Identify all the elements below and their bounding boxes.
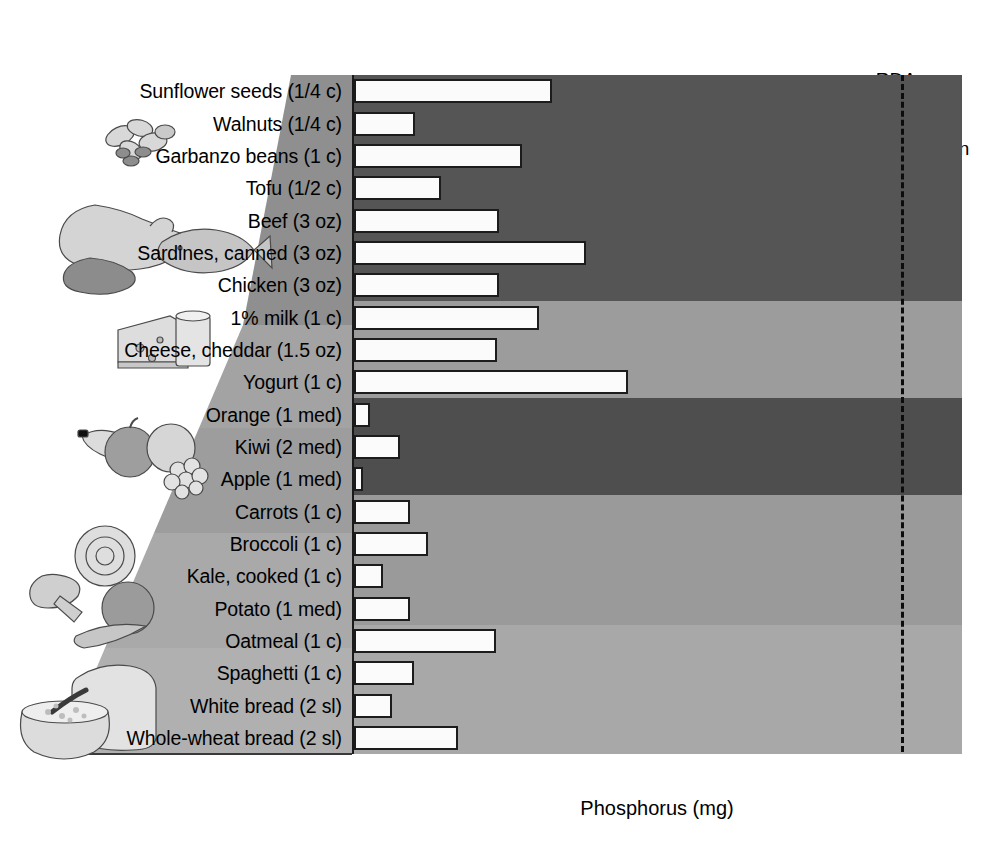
y-axis-label: Tofu (1/2 c)	[246, 176, 342, 200]
bar	[354, 726, 458, 750]
y-axis-label: Cheese, cheddar (1.5 oz)	[124, 338, 342, 362]
y-axis-label: Potato (1 med)	[214, 597, 342, 621]
y-axis-label: Kiwi (2 med)	[235, 435, 342, 459]
y-axis-label: Chicken (3 oz)	[218, 273, 342, 297]
bar	[354, 338, 497, 362]
band-nuts-meat	[354, 75, 962, 301]
y-axis-label: Walnuts (1/4 c)	[213, 112, 342, 136]
bar	[354, 661, 414, 685]
bar	[354, 500, 410, 524]
rda-reference-line	[901, 75, 904, 752]
y-axis-label: White bread (2 sl)	[190, 694, 342, 718]
y-axis-label: Yogurt (1 c)	[243, 370, 342, 394]
y-axis-label: 1% milk (1 c)	[231, 306, 342, 330]
bar	[354, 597, 410, 621]
bar	[354, 435, 400, 459]
y-axis-labels: Sunflower seeds (1/4 c)Walnuts (1/4 c)Ga…	[0, 75, 348, 754]
bar	[354, 403, 370, 427]
bar	[354, 370, 628, 394]
bar	[354, 306, 539, 330]
bar	[354, 209, 499, 233]
bar	[354, 629, 496, 653]
bar	[354, 176, 441, 200]
y-axis-label: Sunflower seeds (1/4 c)	[139, 79, 342, 103]
y-axis-label: Garbanzo beans (1 c)	[155, 144, 342, 168]
y-axis-label: Broccoli (1 c)	[230, 532, 342, 556]
bar	[354, 532, 428, 556]
band-fruit	[354, 398, 962, 495]
y-axis-label: Whole-wheat bread (2 sl)	[127, 726, 342, 750]
bar	[354, 467, 363, 491]
y-axis-label: Oatmeal (1 c)	[225, 629, 342, 653]
plot-area	[352, 75, 962, 754]
bar	[354, 79, 552, 103]
y-axis-label: Spaghetti (1 c)	[217, 661, 342, 685]
y-axis-label: Beef (3 oz)	[248, 209, 342, 233]
bar	[354, 241, 586, 265]
bar	[354, 273, 499, 297]
y-axis-label: Apple (1 med)	[221, 467, 342, 491]
phosphorus-bar-chart: RDA Men and Women	[0, 0, 1007, 847]
bar	[354, 144, 522, 168]
y-axis-label: Sardines, canned (3 oz)	[137, 241, 342, 265]
y-axis-label: Kale, cooked (1 c)	[187, 564, 342, 588]
bar	[354, 694, 392, 718]
bar	[354, 564, 383, 588]
y-axis-label: Carrots (1 c)	[235, 500, 342, 524]
band-vegetables	[354, 495, 962, 624]
x-axis-title: Phosphorus (mg)	[352, 797, 962, 820]
bar	[354, 112, 415, 136]
y-axis-label: Orange (1 med)	[206, 403, 342, 427]
